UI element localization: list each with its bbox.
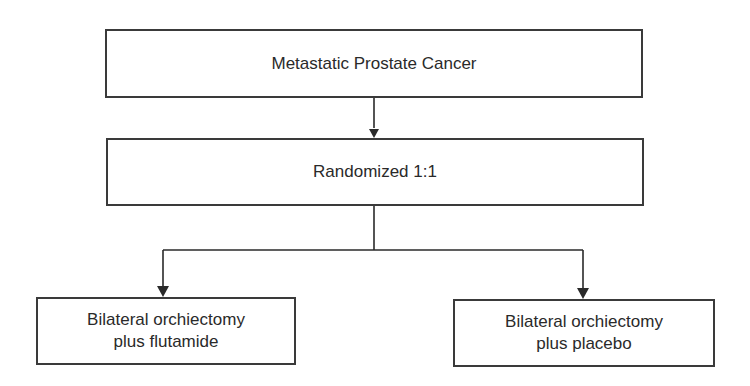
node-metastatic-prostate-cancer: Metastatic Prostate Cancer xyxy=(105,29,643,98)
node-label-line-1: Bilateral orchiectomy xyxy=(87,309,245,331)
node-label-line-2: plus flutamide xyxy=(87,331,245,353)
node-label: Randomized 1:1 xyxy=(313,161,437,183)
node-label-line-1: Bilateral orchiectomy xyxy=(505,311,663,333)
node-randomized: Randomized 1:1 xyxy=(106,138,644,206)
node-label: Metastatic Prostate Cancer xyxy=(271,53,476,75)
node-label-line-2: plus placebo xyxy=(505,333,663,355)
node-orchiectomy-placebo: Bilateral orchiectomy plus placebo xyxy=(453,299,715,367)
node-orchiectomy-flutamide: Bilateral orchiectomy plus flutamide xyxy=(36,297,296,365)
